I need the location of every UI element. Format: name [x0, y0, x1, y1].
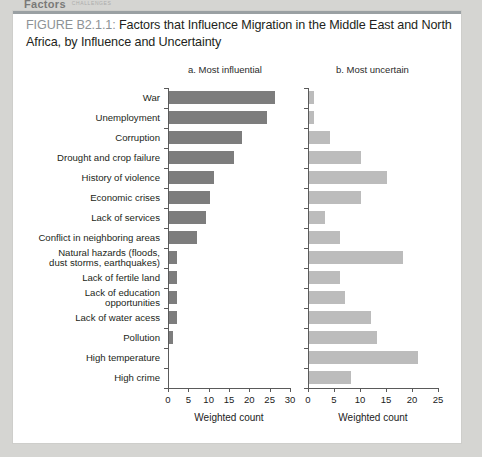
running-head: FactorsCHALLENGES	[24, 0, 111, 10]
x-tick	[290, 388, 291, 392]
bar-row	[169, 248, 291, 268]
bar-a-8	[169, 251, 177, 264]
bar-row	[309, 168, 439, 188]
figure-number: FIGURE B2.1.1:	[26, 18, 116, 32]
x-tick-label: 15	[381, 394, 392, 405]
bar-row	[169, 108, 291, 128]
bar-row	[309, 228, 439, 248]
category-label: Natural hazards (floods, dust storms, ea…	[8, 248, 160, 269]
figure-page: FactorsCHALLENGES FIGURE B2.1.1: Factors…	[0, 0, 482, 457]
bar-row	[309, 348, 439, 368]
y-tick	[164, 348, 168, 349]
y-tick	[304, 208, 308, 209]
x-tick	[270, 388, 271, 392]
bar-a-0	[169, 91, 275, 104]
x-axis-line-b	[308, 388, 438, 389]
y-tick	[304, 128, 308, 129]
x-tick-label: 5	[331, 394, 336, 405]
bar-b-2	[309, 131, 330, 144]
chart-most-uncertain: Weighted count 0510152025	[308, 88, 438, 400]
x-tick	[229, 388, 230, 392]
panel-a-title: a. Most influential	[188, 64, 262, 75]
bar-b-3	[309, 151, 361, 164]
bar-row	[309, 148, 439, 168]
y-tick	[164, 208, 168, 209]
y-tick	[304, 148, 308, 149]
y-tick	[164, 228, 168, 229]
x-tick-label: 5	[186, 394, 191, 405]
bar-b-8	[309, 251, 403, 264]
y-tick	[164, 308, 168, 309]
bar-b-13	[309, 351, 418, 364]
bar-a-7	[169, 231, 197, 244]
y-tick	[164, 148, 168, 149]
y-tick	[304, 348, 308, 349]
x-tick	[168, 388, 169, 392]
bar-b-0	[309, 91, 314, 104]
bar-row	[169, 208, 291, 228]
x-tick	[249, 388, 250, 392]
x-tick	[209, 388, 210, 392]
y-tick	[304, 288, 308, 289]
x-tick-label: 20	[407, 394, 418, 405]
running-head-subtext: CHALLENGES	[72, 0, 112, 6]
bar-a-11	[169, 311, 177, 324]
x-tick	[438, 388, 439, 392]
y-tick	[304, 308, 308, 309]
bar-a-4	[169, 171, 214, 184]
y-tick	[164, 168, 168, 169]
bar-a-12	[169, 331, 173, 344]
y-tick	[164, 288, 168, 289]
figure-title: FIGURE B2.1.1: Factors that Influence Mi…	[26, 17, 458, 51]
category-label: High crime	[8, 373, 160, 384]
category-label: Lack of water acess	[8, 313, 160, 324]
bar-b-7	[309, 231, 340, 244]
y-tick	[304, 88, 308, 89]
x-axis-title-b: Weighted count	[308, 412, 438, 423]
bar-a-9	[169, 271, 177, 284]
bar-row	[309, 308, 439, 328]
bar-row	[309, 108, 439, 128]
category-axis-labels: WarUnemploymentCorruptionDrought and cro…	[8, 88, 164, 388]
y-tick	[164, 108, 168, 109]
running-head-text: Factors	[24, 0, 66, 10]
x-tick-label: 0	[165, 394, 170, 405]
panel-b-title: b. Most uncertain	[336, 64, 409, 75]
bar-a-2	[169, 131, 242, 144]
category-label: Drought and crop failure	[8, 153, 160, 164]
category-label: Lack of services	[8, 213, 160, 224]
bar-b-6	[309, 211, 325, 224]
bar-b-14	[309, 371, 351, 384]
y-tick	[164, 248, 168, 249]
y-tick	[164, 368, 168, 369]
category-label: Lack of education opportunities	[8, 288, 160, 309]
plot-area-b	[308, 88, 438, 388]
figure-top-rule	[13, 11, 461, 14]
bar-a-10	[169, 291, 177, 304]
bar-a-5	[169, 191, 210, 204]
x-tick	[412, 388, 413, 392]
x-tick-label: 30	[285, 394, 296, 405]
x-tick-label: 25	[433, 394, 444, 405]
x-tick-label: 20	[244, 394, 255, 405]
bar-row	[169, 168, 291, 188]
bar-row	[169, 228, 291, 248]
y-tick	[164, 128, 168, 129]
category-label: High temperature	[8, 353, 160, 364]
bar-row	[309, 248, 439, 268]
y-tick	[304, 268, 308, 269]
bar-row	[169, 268, 291, 288]
plot-area-a	[168, 88, 290, 388]
bar-b-5	[309, 191, 361, 204]
x-tick	[334, 388, 335, 392]
bar-row	[169, 188, 291, 208]
bar-row	[309, 88, 439, 108]
x-tick-label: 0	[305, 394, 310, 405]
category-label: Pollution	[8, 333, 160, 344]
bar-row	[309, 188, 439, 208]
bar-row	[169, 288, 291, 308]
bar-b-12	[309, 331, 377, 344]
category-label: Corruption	[8, 133, 160, 144]
bar-b-10	[309, 291, 345, 304]
bar-b-11	[309, 311, 371, 324]
